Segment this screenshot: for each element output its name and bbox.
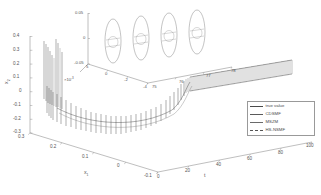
legend-label-0: true value bbox=[266, 104, 285, 108]
t-tick-1: 20 bbox=[185, 169, 190, 174]
y-axis-label: x2 bbox=[4, 79, 11, 83]
x2-tick-3: 0.1 bbox=[13, 75, 19, 80]
inset-h-tick-2: -2 bbox=[124, 78, 128, 82]
x2-tick-4: 0 bbox=[19, 89, 22, 94]
inset-d-tick-3: 78 bbox=[231, 69, 236, 73]
x2-tick-1: 0.3 bbox=[13, 48, 19, 53]
legend-swatch-dashed-icon bbox=[250, 130, 263, 131]
x1-tick-1: 0.2 bbox=[50, 145, 56, 150]
legend-label-2: MSZM bbox=[266, 120, 279, 124]
x1-tickmarks bbox=[28, 133, 158, 174]
x1-tick-3: 0 bbox=[117, 164, 120, 169]
inset-h-tick-0: 5 bbox=[86, 65, 88, 69]
ellipse-2 bbox=[133, 16, 149, 60]
legend-item-hs-nsmf[interactable]: HS-NSMF bbox=[250, 128, 285, 132]
t-tick-4: 80 bbox=[278, 151, 283, 156]
inset-v-tick-2: -0.05 bbox=[74, 61, 84, 65]
ellipse-3 bbox=[161, 13, 177, 57]
t-tick-5: 100 bbox=[306, 144, 314, 149]
inset-v-tick-1: 0 bbox=[83, 36, 85, 40]
legend-item-cdsmf[interactable]: CDSMF bbox=[250, 112, 281, 116]
t-tick-2: 40 bbox=[216, 163, 221, 168]
x2-tick-2: 0.2 bbox=[13, 62, 19, 67]
x2-tick-0: 0.4 bbox=[13, 34, 19, 39]
errorbar-chain bbox=[57, 81, 184, 134]
inset-ellipses bbox=[105, 10, 205, 63]
inset-d-tick-0: 75 bbox=[152, 85, 157, 89]
t-tick-0: 0 bbox=[157, 175, 160, 180]
inset-v-tick-0: 0.05 bbox=[75, 11, 83, 15]
legend-swatch-line-icon bbox=[250, 106, 263, 107]
legend-item-true-value[interactable]: true value bbox=[250, 104, 284, 108]
errorbar-cluster-left bbox=[44, 39, 62, 120]
x-axis-label: x1 bbox=[84, 170, 88, 177]
legend-label-1: CDSMF bbox=[266, 112, 281, 116]
x1-tick-4: -0.1 bbox=[144, 174, 152, 179]
x1-tick-2: 0.1 bbox=[82, 155, 88, 160]
ellipse-4 bbox=[189, 10, 205, 54]
t-tick-3: 60 bbox=[247, 157, 252, 162]
legend-box: true value CDSMF MSZM HS-NSMF bbox=[247, 101, 315, 136]
inset-scale-label: ×10-3 bbox=[64, 77, 74, 83]
plot-graphics bbox=[0, 0, 321, 195]
inset-h-tick-3: -4 bbox=[143, 85, 147, 89]
inset-h-tick-1: 0 bbox=[105, 72, 107, 76]
x2-tick-5: -0.1 bbox=[13, 103, 21, 108]
x2-tickmarks bbox=[30, 37, 32, 134]
inset-d-tick-1: 76 bbox=[179, 80, 184, 84]
z-axis-label: t bbox=[204, 173, 205, 178]
legend-swatch-line-icon bbox=[250, 114, 263, 115]
inset-d-tick-2: 77 bbox=[206, 74, 211, 78]
legend-swatch-line-icon bbox=[250, 122, 263, 123]
figure-canvas: 0.4 0.3 0.2 0.1 0 -0.1 -0.2 -0.3 0.3 0.2… bbox=[0, 0, 321, 195]
legend-item-mszm[interactable]: MSZM bbox=[250, 120, 278, 124]
x1-tick-0: 0.3 bbox=[18, 135, 24, 140]
x2-tick-6: -0.2 bbox=[13, 117, 21, 122]
ellipse-1 bbox=[105, 19, 121, 63]
legend-label-3: HS-NSMF bbox=[266, 128, 286, 132]
